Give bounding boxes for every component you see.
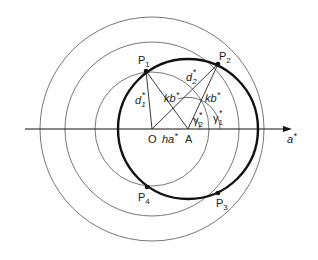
label-p4: P4	[138, 191, 150, 206]
line-o-p1	[146, 71, 152, 129]
label-d2-star: d2*	[186, 67, 197, 86]
label-d1-star: d1*	[135, 90, 146, 109]
label-kb-star-right: kb*	[205, 90, 221, 104]
label-p2: P2	[219, 50, 231, 65]
label-axis-a-star: a*	[287, 131, 297, 145]
label-point-a: A	[185, 133, 193, 145]
point-p1	[144, 69, 149, 74]
label-gamma2-star: γ2*	[193, 110, 204, 129]
label-ha-star: ha*	[162, 131, 178, 145]
label-kb-star-left: kb*	[164, 90, 180, 104]
point-p3	[216, 191, 221, 196]
point-p2	[216, 62, 221, 67]
diagram-canvas: P1 P2 P3 P4 O A ha* a* d1* d2* kb* kb* γ…	[0, 0, 318, 260]
axis-arrowhead-icon	[283, 126, 292, 132]
point-p4	[145, 185, 150, 190]
label-p3: P3	[216, 197, 228, 212]
label-p1: P1	[138, 54, 150, 69]
label-origin: O	[148, 133, 157, 145]
